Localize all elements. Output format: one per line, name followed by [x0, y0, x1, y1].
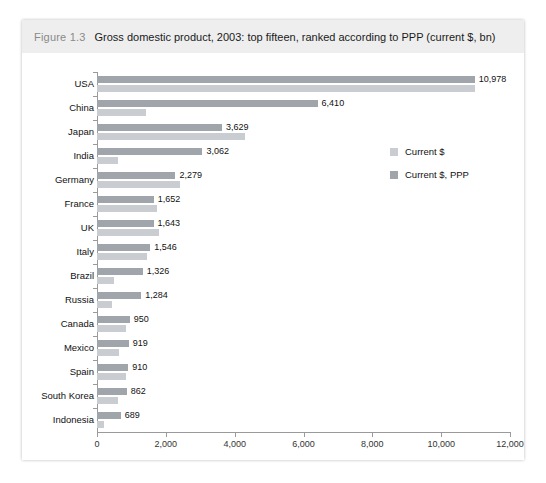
y-axis-tick	[93, 192, 97, 193]
x-axis-tick-label: 8,000	[361, 439, 384, 449]
y-axis-category-label: Brazil	[25, 270, 94, 281]
y-axis-tick	[93, 336, 97, 337]
bar-current-dollar	[97, 133, 245, 140]
legend-swatch-icon	[390, 148, 398, 156]
y-axis-category-label: Indonesia	[25, 414, 94, 425]
bar-value-label: 950	[134, 314, 149, 324]
bar-value-label: 3,629	[226, 122, 249, 132]
bar-current-ppp	[97, 316, 130, 323]
y-axis-tick	[93, 144, 97, 145]
bar-value-label: 919	[133, 338, 148, 348]
bar-value-label: 862	[131, 386, 146, 396]
figure-card: Figure 1.3 Gross domestic product, 2003:…	[22, 20, 524, 460]
y-axis-tick	[93, 168, 97, 169]
y-axis-tick	[93, 96, 97, 97]
bar-current-dollar	[97, 349, 119, 356]
figure-header: Figure 1.3 Gross domestic product, 2003:…	[22, 20, 524, 53]
y-axis-category-label: Italy	[25, 246, 94, 257]
y-axis-tick	[93, 360, 97, 361]
legend-item-current: Current $	[390, 146, 469, 157]
bar-value-label: 1,546	[154, 242, 177, 252]
bar-current-dollar	[97, 325, 126, 332]
y-axis-tick	[93, 408, 97, 409]
x-axis-tick-label: 0	[94, 439, 99, 449]
x-axis-tick	[441, 433, 442, 437]
bar-value-label: 1,284	[145, 290, 168, 300]
bar-current-ppp	[97, 148, 202, 155]
y-axis-category-label: Japan	[25, 126, 94, 137]
y-axis-category-label: Russia	[25, 294, 94, 305]
y-axis-tick	[93, 120, 97, 121]
bar-current-dollar	[97, 109, 146, 116]
bar-current-dollar	[97, 277, 114, 284]
y-axis-category-label: China	[25, 102, 94, 113]
legend-item-current_ppp: Current $, PPP	[390, 169, 469, 180]
figure-number: Figure 1.3	[34, 31, 86, 43]
y-axis-category-labels: USAChinaJapanIndiaGermanyFranceUKItalyBr…	[22, 53, 94, 460]
bar-current-ppp	[97, 244, 150, 251]
x-axis-tick	[372, 433, 373, 437]
figure-title: Gross domestic product, 2003: top fiftee…	[95, 31, 496, 43]
bar-value-label: 1,643	[158, 218, 181, 228]
y-axis-category-label: France	[25, 198, 94, 209]
bar-value-label: 689	[125, 410, 140, 420]
bar-value-label: 10,978	[479, 74, 507, 84]
y-axis-category-label: UK	[25, 222, 94, 233]
chart-legend: Current $Current $, PPP	[390, 146, 469, 192]
bar-current-ppp	[97, 172, 175, 179]
y-axis-category-label: Mexico	[25, 342, 94, 353]
bar-current-ppp	[97, 124, 222, 131]
bar-value-label: 910	[132, 362, 147, 372]
y-axis-category-label: Germany	[25, 174, 94, 185]
bar-current-dollar	[97, 85, 475, 92]
bar-current-dollar	[97, 253, 147, 260]
bar-value-label: 1,652	[158, 194, 181, 204]
y-axis-tick	[93, 312, 97, 313]
y-axis-category-label: USA	[25, 78, 94, 89]
bar-current-ppp	[97, 196, 154, 203]
bar-current-dollar	[97, 181, 180, 188]
bar-current-ppp	[97, 76, 475, 83]
bar-current-dollar	[97, 205, 157, 212]
bar-current-ppp	[97, 412, 121, 419]
x-axis-tick	[166, 433, 167, 437]
y-axis-tick	[93, 288, 97, 289]
bar-value-label: 6,410	[322, 98, 345, 108]
x-axis-tick	[235, 433, 236, 437]
bar-current-dollar	[97, 373, 126, 380]
x-axis-tick-label: 4,000	[223, 439, 246, 449]
bar-current-ppp	[97, 292, 141, 299]
bar-value-label: 2,279	[179, 170, 202, 180]
x-axis-tick-label: 6,000	[292, 439, 315, 449]
bar-current-dollar	[97, 301, 112, 308]
y-axis-category-label: Spain	[25, 366, 94, 377]
y-axis-category-label: India	[25, 150, 94, 161]
x-axis-tick-label: 10,000	[427, 439, 455, 449]
x-axis-tick-label: 2,000	[155, 439, 178, 449]
y-axis-tick	[93, 384, 97, 385]
x-axis-tick	[510, 433, 511, 437]
bar-current-ppp	[97, 268, 143, 275]
y-axis-category-label: South Korea	[25, 390, 94, 401]
bar-current-ppp	[97, 220, 154, 227]
bar-current-dollar	[97, 397, 118, 404]
y-axis-category-label: Canada	[25, 318, 94, 329]
x-axis-tick	[304, 433, 305, 437]
x-axis-tick-label: 12,000	[496, 439, 524, 449]
legend-swatch-icon	[390, 171, 398, 179]
legend-label: Current $, PPP	[405, 169, 469, 180]
bar-value-label: 3,062	[206, 146, 229, 156]
y-axis-tick	[93, 240, 97, 241]
y-axis-tick	[93, 264, 97, 265]
y-axis-tick	[93, 72, 97, 73]
bar-current-dollar	[97, 229, 159, 236]
bar-current-dollar	[97, 421, 104, 428]
legend-label: Current $	[405, 146, 445, 157]
bar-current-ppp	[97, 340, 129, 347]
chart-plot-area: USAChinaJapanIndiaGermanyFranceUKItalyBr…	[22, 53, 524, 460]
bar-current-dollar	[97, 157, 118, 164]
y-axis-tick	[93, 216, 97, 217]
bar-value-label: 1,326	[147, 266, 170, 276]
x-axis-tick	[97, 433, 98, 437]
bar-current-ppp	[97, 364, 128, 371]
